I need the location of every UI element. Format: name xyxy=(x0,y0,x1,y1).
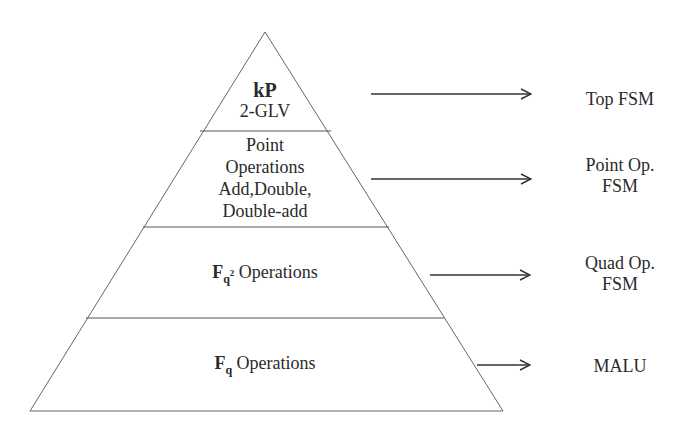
layer-point-line-4: Double-add xyxy=(165,200,365,222)
layer-point-line-2: Operations xyxy=(165,156,365,178)
target-point-fsm: Point Op. FSM xyxy=(560,155,680,197)
layer-point-line-3: Add,Double, xyxy=(165,178,365,200)
layer-base-symbol: F xyxy=(214,353,225,373)
layer-quad-rest: Operations xyxy=(234,262,317,282)
layer-top-label: kP 2-GLV xyxy=(215,79,315,122)
target-quad-fsm: Quad Op. FSM xyxy=(560,253,680,295)
target-point-fsm-line-1: Point Op. xyxy=(560,155,680,176)
layer-top-title: kP xyxy=(215,79,315,101)
layer-top-line: 2-GLV xyxy=(215,101,315,122)
target-top-fsm: Top FSM xyxy=(560,89,680,110)
target-point-fsm-line-2: FSM xyxy=(560,176,680,197)
layer-point-label: Point Operations Add,Double, Double-add xyxy=(165,134,365,222)
layer-base-rest: Operations xyxy=(232,353,315,373)
layer-quad-symbol: F xyxy=(212,262,223,282)
target-quad-fsm-line-1: Quad Op. xyxy=(560,253,680,274)
layer-quad-superscript: 2 xyxy=(230,268,235,278)
layer-base-label: Fq Operations xyxy=(165,353,365,376)
target-quad-fsm-line-2: FSM xyxy=(560,274,680,295)
layer-base-subscript: q xyxy=(225,363,232,377)
layer-quad-subscript: q xyxy=(223,272,230,286)
target-top-fsm-line: Top FSM xyxy=(560,89,680,110)
layer-quad-label: Fq2 Operations xyxy=(165,262,365,286)
target-malu-line: MALU xyxy=(560,356,680,377)
target-malu: MALU xyxy=(560,356,680,377)
layer-point-line-1: Point xyxy=(165,134,365,156)
